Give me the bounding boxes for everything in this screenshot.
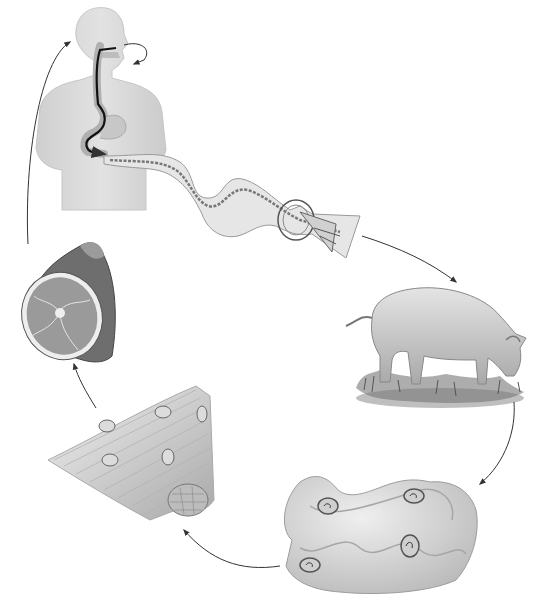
muscle-cysts-illustration — [48, 386, 214, 520]
worm-to-pig-arrow — [362, 236, 456, 282]
muscle-to-meat-arrow — [74, 364, 96, 408]
cyst — [300, 558, 320, 572]
cyst — [401, 535, 419, 557]
intestine-cysts-illustration — [284, 477, 477, 594]
cyst — [404, 489, 424, 503]
intestine-to-muscle-arrow — [184, 530, 280, 568]
ingestion-arrow — [124, 44, 147, 64]
pig-to-intestine-arrow — [480, 402, 514, 484]
pig-host-illustration — [346, 288, 526, 408]
life-cycle-diagram: parasite-life-cycle — [0, 0, 557, 612]
cyst — [318, 498, 338, 514]
pork-meat-illustration — [10, 242, 115, 370]
human-host-illustration — [36, 8, 166, 210]
